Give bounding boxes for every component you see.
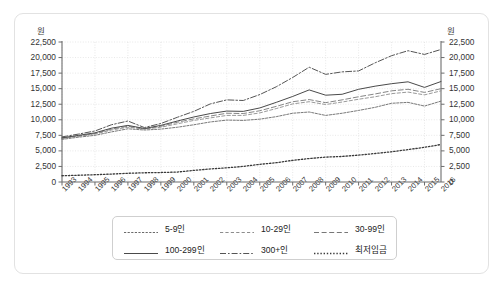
legend-swatch-icon [123, 223, 159, 232]
legend-swatch-icon [123, 244, 159, 253]
legend-label: 5-9인 [165, 222, 185, 234]
legend-item[interactable]: 5-9인 [113, 222, 209, 234]
legend-swatch-icon [219, 223, 255, 232]
legend-swatch-icon [313, 223, 349, 232]
series-line [62, 101, 441, 139]
legend-label: 최저임금 [355, 243, 387, 255]
legend-label: 300+인 [261, 243, 288, 255]
legend-item[interactable]: 30-99인 [303, 222, 396, 234]
chart-figure: 원 원 02,5005,0007,50010,00012,50015,00017… [0, 0, 503, 287]
axes [59, 41, 445, 186]
legend-swatch-icon [313, 244, 349, 253]
legend-item[interactable]: 최저임금 [303, 243, 396, 255]
legend-label: 10-29인 [261, 222, 291, 234]
legend-item[interactable]: 100-299인 [113, 243, 209, 255]
legend-item[interactable]: 300+인 [209, 243, 303, 255]
series-line [62, 49, 441, 136]
series-line [62, 82, 441, 138]
legend-label: 30-99인 [355, 222, 385, 234]
chart-legend: 5-9인10-29인30-99인100-299인300+인최저임금 [112, 216, 397, 260]
data-series [62, 49, 441, 175]
series-line [62, 144, 441, 175]
legend-swatch-icon [219, 244, 255, 253]
legend-label: 100-299인 [165, 243, 205, 255]
legend-item[interactable]: 10-29인 [209, 222, 303, 234]
